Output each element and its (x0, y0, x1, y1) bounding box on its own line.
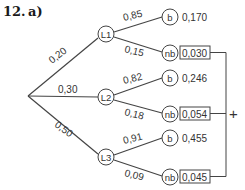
leaf-l2-b: b (162, 70, 178, 86)
svg-text:L3: L3 (101, 152, 112, 163)
branch-label-l3: 0,50 (53, 119, 76, 140)
node-l3: L3 (98, 149, 114, 165)
level2-branches (114, 17, 162, 176)
leaf-l3-nb: nb (162, 169, 178, 185)
node-l1: L1 (98, 26, 114, 42)
result-l3-b: 0,455 (182, 133, 207, 144)
branch-label-l1: 0,20 (46, 45, 68, 66)
svg-text:L1: L1 (101, 29, 112, 40)
branch-label-l1-b: 0,85 (122, 7, 144, 22)
svg-text:b: b (167, 12, 172, 23)
svg-text:nb: nb (165, 48, 176, 59)
result-l2-b: 0,246 (182, 73, 207, 84)
result-l1-b: 0,170 (182, 12, 207, 23)
branch-label-l2: 0,30 (58, 84, 78, 95)
result-l1-nb: 0,030 (182, 48, 207, 59)
svg-text:b: b (167, 73, 172, 84)
branch-label-l2-b: 0,82 (122, 70, 144, 85)
result-l3-nb: 0,045 (182, 172, 207, 183)
leaf-l1-nb: nb (162, 45, 178, 61)
exercise-number: 12. (3, 4, 26, 19)
branch-label-l2-nb: 0,18 (124, 106, 146, 121)
svg-text:b: b (167, 133, 172, 144)
result-l2-nb: 0,054 (182, 109, 207, 120)
svg-text:nb: nb (165, 172, 176, 183)
plus-sign: + (229, 105, 238, 122)
svg-text:nb: nb (165, 109, 176, 120)
leaf-l3-b: b (162, 130, 178, 146)
branch-label-l3-b: 0,91 (122, 130, 144, 145)
exercise-part: a) (28, 4, 43, 19)
leaf-l2-nb: nb (162, 106, 178, 122)
probability-tree-diagram: 12. a) 0,20 0,30 0,50 L1 L2 L3 0,85 0,15… (0, 0, 245, 190)
sum-bracket (210, 53, 226, 177)
leaf-l1-b: b (162, 9, 178, 25)
svg-text:L2: L2 (101, 92, 112, 103)
node-l2: L2 (98, 89, 114, 105)
